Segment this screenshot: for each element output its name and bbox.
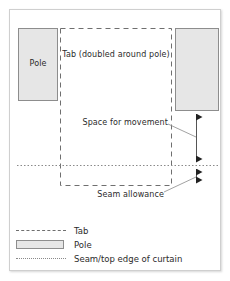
pole-label: Pole [22, 59, 54, 69]
legend-swatch-dotted-line [16, 252, 66, 266]
seam-allowance-label: Seam allowance [56, 190, 164, 200]
legend-label-seam: Seam/top edge of curtain [74, 253, 182, 265]
legend-item-pole: Pole [16, 238, 212, 252]
legend-item-tab: Tab [16, 224, 212, 238]
legend-label-pole: Pole [74, 239, 92, 251]
legend-item-seam: Seam/top edge of curtain [16, 252, 212, 266]
space-for-movement-label: Space for movement [62, 118, 168, 128]
tab-label: Tab (doubled around pole) [62, 50, 170, 60]
legend-label-tab: Tab [74, 225, 88, 237]
legend: Tab Pole Seam/top edge of curtain [16, 224, 212, 266]
space-for-movement-leader [168, 124, 196, 137]
pole-right-shape [176, 29, 219, 111]
legend-swatch-dashed-line [16, 224, 66, 238]
diagram-figure: Pole Tab (doubled around pole) Space for… [0, 0, 230, 281]
seam-allowance-leader [164, 177, 196, 192]
legend-swatch-filled-rectangle [16, 238, 66, 252]
